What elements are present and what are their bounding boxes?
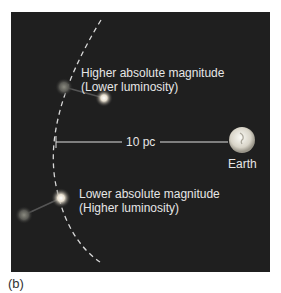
ten-parsec-arc	[53, 20, 101, 262]
upper-star-dim	[55, 78, 73, 96]
lower-star	[51, 188, 71, 208]
earth-label: Earth	[228, 157, 257, 171]
lower-star-dim	[15, 206, 33, 224]
panel-label: (b)	[8, 276, 24, 291]
upper-star-label-line1: Higher absolute magnitude	[81, 66, 224, 80]
lower-star-label-line1: Lower absolute magnitude	[79, 187, 220, 201]
upper-star-label-line2: (Lower luminosity)	[81, 80, 178, 94]
lower-star-label-line2: (Higher luminosity)	[79, 201, 179, 215]
distance-label: 10 pc	[126, 135, 155, 149]
